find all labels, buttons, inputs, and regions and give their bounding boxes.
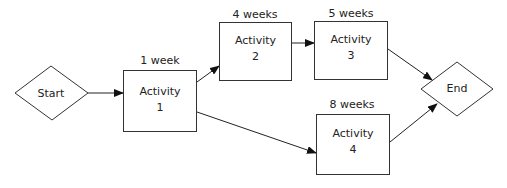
activity1-duration: 1 week [120,54,200,67]
arrow-activity1-to-activity2 [197,66,219,82]
activity4-duration: 8 weeks [312,98,392,111]
activity2-number: 2 [220,49,291,65]
arrow-activity1-to-activity4 [197,112,316,153]
activity1-box: Activity1 [123,70,197,132]
activity1-name: Activity [124,84,196,100]
activity3-name: Activity [315,32,387,48]
activity4-name: Activity [317,126,389,142]
activity3-box: Activity3 [314,21,388,80]
start-node-label: Start [21,87,81,100]
activity2-duration: 4 weeks [215,8,295,21]
activity4-number: 4 [317,142,389,158]
activity4-box: Activity4 [316,114,390,175]
end-node-label: End [427,82,487,95]
activity3-number: 3 [315,48,387,64]
arrow-activity3-to-end [388,49,432,80]
arrow-activity4-to-end [390,104,437,142]
activity3-duration: 5 weeks [311,7,391,20]
activity1-number: 1 [124,100,196,116]
activity2-box: Activity2 [219,22,292,81]
activity2-name: Activity [220,33,291,49]
